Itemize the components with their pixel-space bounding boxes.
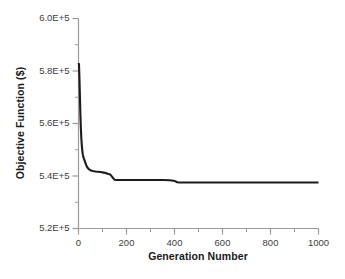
axes — [79, 19, 319, 229]
y-tick-label: 5.8E+5 — [30, 65, 70, 76]
y-tick-label: 5.4E+5 — [30, 170, 70, 181]
x-tick-label: 1000 — [299, 237, 339, 248]
y-tick-label: 5.2E+5 — [30, 222, 70, 233]
x-tick-label: 400 — [155, 237, 195, 248]
data-series — [79, 63, 319, 182]
x-axis-title: Generation Number — [78, 250, 318, 262]
tick-marks — [73, 19, 319, 235]
x-tick-label: 200 — [107, 237, 147, 248]
x-tick-label: 600 — [203, 237, 243, 248]
y-tick-label: 5.6E+5 — [30, 117, 70, 128]
y-tick-label: 6.0E+5 — [30, 12, 70, 23]
x-tick-label: 0 — [59, 237, 99, 248]
convergence-chart: 5.2E+55.4E+55.6E+55.8E+56.0E+5 020040060… — [0, 0, 345, 279]
x-tick-label: 800 — [251, 237, 291, 248]
